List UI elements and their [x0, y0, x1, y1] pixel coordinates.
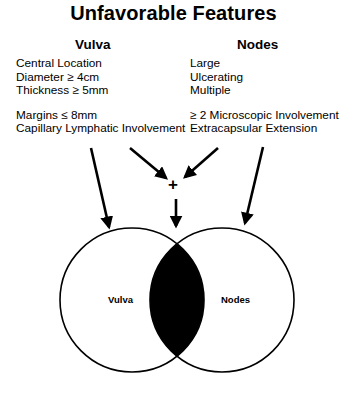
nodes-arrow-icon [245, 147, 263, 223]
plus-icon: + [168, 175, 178, 195]
nodes-to-plus-arrow-icon [185, 148, 218, 177]
venn-diagram [0, 0, 347, 393]
nodes-circle-label: Nodes [221, 294, 250, 305]
vulva-circle-label: Vulva [108, 294, 133, 305]
vulva-to-plus-arrow-icon [130, 148, 166, 178]
vulva-arrow-icon [91, 148, 109, 227]
